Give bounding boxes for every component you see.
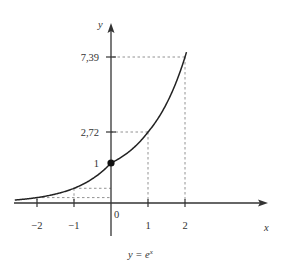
exp-curve [15,52,187,200]
origin-label: 0 [114,209,119,220]
y-tick-label: 7,39 [81,52,99,63]
x-tick-label: 1 [145,220,150,231]
y-tick-label: 1 [94,158,99,169]
chart-caption: y = ex [127,248,154,260]
y-axis-label: y [97,19,103,30]
x-tick-label: 2 [182,220,187,231]
x-tick-label: −2 [31,220,42,231]
x-tick-label: −1 [68,220,79,231]
x-axis-label: x [263,222,269,233]
tick-labels: −2−11212,727,39 [31,52,187,231]
y-tick-label: 2,72 [81,127,99,138]
exponential-chart: y x 0 −2−11212,727,39 y = ex [0,0,285,275]
point-0-1 [107,159,114,166]
